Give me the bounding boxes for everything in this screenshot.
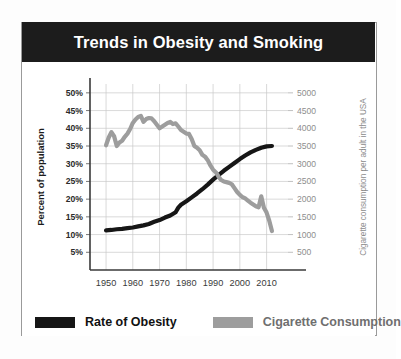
chart-title-bar: Trends in Obesity and Smoking (22, 22, 375, 62)
plot-area: 5%10%15%20%25%30%35%40%45%50%50010001500… (22, 62, 375, 336)
legend-item-obesity: Rate of Obesity (35, 315, 177, 329)
chart-legend: Rate of Obesity Cigarette Consumption (22, 308, 375, 336)
y-axis-tick-label: 20% (66, 194, 84, 204)
y2-axis-title: Cigarette consumption per adult in the U… (359, 98, 368, 256)
page-title: Trends in Obesity and Smoking (74, 33, 324, 52)
legend-swatch-obesity (35, 317, 75, 328)
y2-axis-tick-label: 2000 (297, 194, 316, 204)
x-axis-tick-label: 1980 (176, 278, 196, 288)
legend-item-cigarette: Cigarette Consumption (213, 315, 401, 329)
y2-axis-tick-label: 3000 (297, 159, 316, 169)
y2-axis-tick-label: 4500 (297, 106, 316, 116)
y2-axis-tick-label: 1000 (297, 230, 316, 240)
line-chart: 5%10%15%20%25%30%35%40%45%50%50010001500… (22, 62, 375, 336)
y2-axis-tick-label: 500 (297, 247, 312, 257)
y2-axis-tick-label: 1500 (297, 212, 316, 222)
y-axis-tick-label: 35% (66, 141, 84, 151)
y-axis-title: Percent of population (35, 128, 46, 226)
y2-axis-tick-label: 3500 (297, 141, 316, 151)
x-axis-tick-label: 1960 (123, 278, 143, 288)
y-axis-tick-label: 45% (66, 106, 84, 116)
x-axis-tick-label: 1970 (149, 278, 169, 288)
x-axis-tick-label: 1990 (203, 278, 223, 288)
x-axis-tick-label: 2010 (256, 278, 276, 288)
y2-axis-tick-label: 5000 (297, 88, 316, 98)
y-axis-tick-label: 5% (71, 247, 84, 257)
legend-swatch-cigarette (213, 317, 253, 328)
y-axis-tick-label: 40% (66, 123, 84, 133)
legend-label-cigarette: Cigarette Consumption (263, 315, 401, 329)
y2-axis-tick-label: 4000 (297, 123, 316, 133)
series-line-cigarette (106, 116, 272, 231)
x-axis-tick-label: 2000 (230, 278, 250, 288)
x-axis-tick-label: 1950 (96, 278, 116, 288)
y-axis-tick-label: 50% (66, 88, 84, 98)
y2-axis-tick-label: 2500 (297, 176, 316, 186)
y-axis-tick-label: 30% (66, 159, 84, 169)
y-axis-tick-label: 10% (66, 230, 84, 240)
y-axis-tick-label: 25% (66, 176, 84, 186)
legend-label-obesity: Rate of Obesity (85, 315, 177, 329)
y-axis-tick-label: 15% (66, 212, 84, 222)
series-line-obesity (106, 146, 272, 230)
